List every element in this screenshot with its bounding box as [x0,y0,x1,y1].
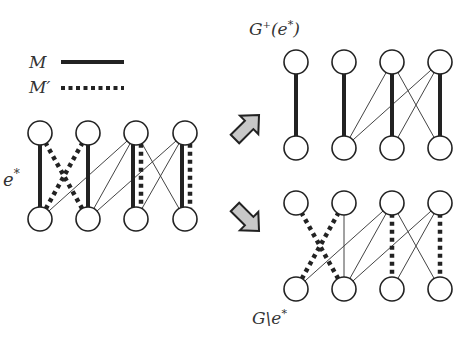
graph-G-minus-e-star [284,191,452,301]
node-top-3 [124,121,148,145]
node-top-4 [173,121,197,145]
node-bottom-4 [428,136,452,160]
node-bottom-4 [173,207,197,231]
node-top-2 [332,50,356,74]
edge-thin [349,71,386,138]
node-bottom-2 [332,136,356,160]
arrow-up-right-icon [226,106,268,148]
matching-diagram: M M′ e* G+(e*) G\e* [0,0,475,342]
label-g-minus-e-star: G\e* [252,307,287,328]
node-top-2 [76,121,100,145]
legend-label-m: M [28,52,47,72]
node-top-1 [28,121,52,145]
graph-original [28,121,197,231]
edge-label-e-star: e* [3,167,20,190]
node-bottom-1 [284,136,308,160]
node-top-4 [428,50,452,74]
node-bottom-3 [124,207,148,231]
node-bottom-3 [380,136,404,160]
legend: M M′ [28,52,124,97]
node-top-2 [332,191,356,215]
label-g-plus-e-star: G+(e*) [249,18,300,39]
node-top-3 [380,191,404,215]
node-bottom-2 [76,207,100,231]
edge-thin [349,212,386,279]
node-bottom-3 [380,277,404,301]
graph-G-plus-e-star [284,50,452,160]
node-bottom-1 [284,277,308,301]
edge-thin [93,142,130,209]
diagram-svg: M M′ e* G+(e*) G\e* [0,0,475,342]
node-top-1 [284,50,308,74]
node-top-3 [380,50,404,74]
node-bottom-2 [332,277,356,301]
node-bottom-4 [428,277,452,301]
node-top-4 [428,191,452,215]
edge-thin [96,140,177,212]
arrow-down-right-icon [226,198,268,240]
node-bottom-1 [28,207,52,231]
legend-label-m-prime: M′ [28,77,50,97]
node-top-1 [284,191,308,215]
